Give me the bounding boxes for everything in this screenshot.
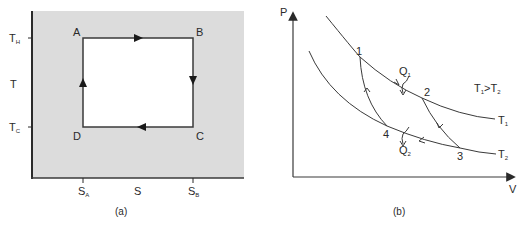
carnot-cycle-figure: A B C D TH T TC SA S SB (a) P V: [0, 0, 526, 228]
isotherm-t1-curve: [326, 16, 495, 119]
x-axis-label-s: S: [134, 185, 141, 197]
arrow-2-to-3-icon: [437, 123, 443, 128]
caption-a: (a): [115, 206, 127, 217]
temperature-condition-label: T1>T2: [474, 82, 501, 95]
isotherm-t1-label: T1: [498, 114, 509, 127]
point-1-label: 1: [356, 45, 362, 57]
corner-b-label: B: [196, 26, 203, 38]
ts-diagram: A B C D TH T TC SA S SB (a): [9, 11, 244, 217]
pv-diagram: P V Q1 Q2 1 2 3 4 T1 T2 T1>T2 (b): [280, 6, 517, 217]
point-4-label: 4: [383, 128, 389, 140]
heat-out-label: Q2: [399, 144, 412, 157]
point-3-label: 3: [457, 150, 463, 162]
tick-label-tc: TC: [9, 121, 21, 134]
corner-c-label: C: [196, 130, 204, 142]
tick-label-th: TH: [9, 32, 20, 45]
heat-in-label: Q1: [399, 65, 412, 78]
tick-label-sb: SB: [188, 185, 199, 198]
y-axis-label-t: T: [10, 78, 17, 90]
corner-a-label: A: [73, 26, 81, 38]
tick-label-sa: SA: [78, 185, 89, 198]
isotherm-t2-label: T2: [498, 148, 509, 161]
x-axis-label-v: V: [509, 183, 517, 195]
y-axis-label-p: P: [280, 6, 287, 18]
caption-b: (b): [393, 206, 405, 217]
corner-d-label: D: [73, 130, 81, 142]
carnot-cycle-rectangle: [83, 38, 193, 127]
point-2-label: 2: [424, 86, 430, 98]
